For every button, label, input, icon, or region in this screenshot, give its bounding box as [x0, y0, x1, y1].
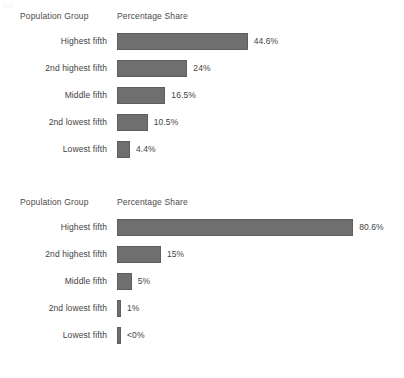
bar-row: 2nd highest fifth 24% [0, 59, 404, 86]
chart-page: Population Group Percentage Share Highes… [0, 0, 404, 378]
column-header-percentage-share: Percentage Share [117, 11, 188, 21]
bar-row: Highest fifth 44.6% [0, 32, 404, 59]
bar-track: 5% [117, 273, 404, 290]
bar-value-label: 24% [193, 63, 210, 73]
bar-value-label: 10.5% [154, 117, 179, 127]
column-header-population-group: Population Group [20, 11, 89, 21]
bar-row: Middle fifth 16.5% [0, 86, 404, 113]
bar-track: <0% [117, 327, 404, 344]
bar-fill [117, 273, 132, 290]
bar-fill [117, 327, 121, 344]
bar-value-label: 16.5% [171, 90, 196, 100]
bar-value-label: 44.6% [254, 36, 279, 46]
bar-row-label: Middle fifth [0, 90, 107, 100]
bar-track: 80.6% [117, 219, 404, 236]
column-header-percentage-share: Percentage Share [117, 197, 188, 207]
bar-row: 2nd lowest fifth 10.5% [0, 113, 404, 140]
bar-row-label: Lowest fifth [0, 144, 107, 154]
bar-row: Lowest fifth 4.4% [0, 140, 404, 167]
bar-row: Lowest fifth <0% [0, 326, 404, 353]
bar-fill [117, 219, 353, 236]
bar-fill [117, 33, 248, 50]
chart-rows-bottom: Highest fifth 80.6% 2nd highest fifth 15… [0, 218, 404, 353]
bar-row-label: 2nd lowest fifth [0, 117, 107, 127]
bar-fill [117, 114, 148, 131]
bar-row-label: Highest fifth [0, 222, 107, 232]
bar-value-label: 4.4% [136, 144, 156, 154]
bar-value-label: 5% [138, 276, 151, 286]
bar-row-label: Highest fifth [0, 36, 107, 46]
bar-track: 1% [117, 300, 404, 317]
bar-track: 44.6% [117, 33, 404, 50]
bar-value-label: 1% [127, 303, 140, 313]
bar-fill [117, 87, 165, 104]
column-header-population-group: Population Group [20, 197, 89, 207]
bar-row-label: 2nd highest fifth [0, 249, 107, 259]
bar-fill [117, 60, 187, 77]
bar-row: 2nd highest fifth 15% [0, 245, 404, 272]
bar-track: 16.5% [117, 87, 404, 104]
bar-value-label: 15% [167, 249, 184, 259]
chart-block-bottom: Population Group Percentage Share Highes… [0, 192, 404, 353]
bar-fill [117, 246, 161, 263]
bar-row: Middle fifth 5% [0, 272, 404, 299]
bar-row-label: Lowest fifth [0, 330, 107, 340]
bar-value-label: 80.6% [359, 222, 384, 232]
bar-fill [117, 141, 130, 158]
bar-value-label: <0% [127, 330, 145, 340]
bar-track: 10.5% [117, 114, 404, 131]
bar-row: 2nd lowest fifth 1% [0, 299, 404, 326]
chart-rows-top: Highest fifth 44.6% 2nd highest fifth 24… [0, 32, 404, 167]
bar-track: 15% [117, 246, 404, 263]
bar-row-label: 2nd lowest fifth [0, 303, 107, 313]
bar-track: 4.4% [117, 141, 404, 158]
chart-block-top: Population Group Percentage Share Highes… [0, 6, 404, 167]
bar-track: 24% [117, 60, 404, 77]
bar-fill [117, 300, 121, 317]
chart-header-bottom: Population Group Percentage Share [0, 192, 404, 212]
bar-row-label: 2nd highest fifth [0, 63, 107, 73]
chart-header-top: Population Group Percentage Share [0, 6, 404, 26]
bar-row-label: Middle fifth [0, 276, 107, 286]
bar-row: Highest fifth 80.6% [0, 218, 404, 245]
